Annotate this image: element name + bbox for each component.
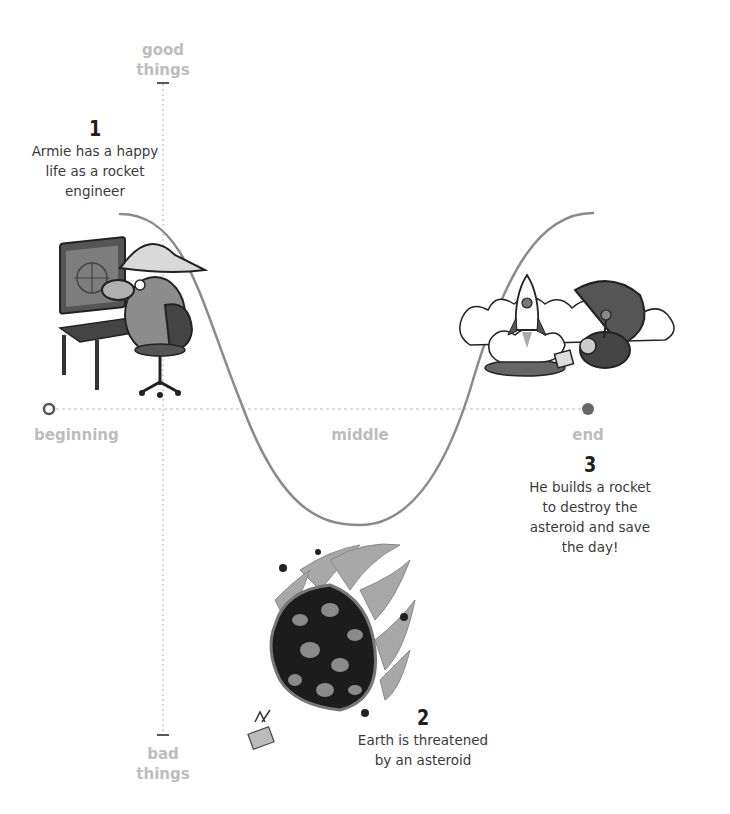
x-axis-start-label: beginning [34,425,134,445]
step-3-line-1: He builds a rocket [520,477,660,497]
step-1-line-1: Armie has a happy [20,141,170,161]
y-top-label-line-1: good [130,40,196,60]
illustration-computer-character-icon [60,237,205,398]
step-1-number: 1 [35,116,155,141]
step-3: 3 He builds a rocket to destroy the aste… [520,452,660,557]
illustration-rocket-launch-icon [460,275,674,376]
y-top-label-line-2: things [130,60,196,80]
step-3-number: 3 [534,452,646,477]
step-3-line-4: the day! [520,537,660,557]
step-1-line-2: life as a rocket [20,161,170,181]
step-2-number: 2 [363,705,483,730]
y-bottom-label-line-1: bad [130,744,196,764]
step-1-line-3: engineer [20,181,170,201]
start-dot-icon [44,404,54,414]
x-axis-end-label: end [558,425,618,445]
x-axis-middle-label: middle [320,425,400,445]
step-2: 2 Earth is threatened by an asteroid [348,705,498,770]
step-1-text: Armie has a happy life as a rocket engin… [20,141,170,201]
y-axis-bottom-label: bad things [130,744,196,784]
step-3-line-2: to destroy the [520,497,660,517]
step-2-line-1: Earth is threatened [348,730,498,750]
step-2-text: Earth is threatened by an asteroid [348,730,498,770]
end-dot-icon [582,403,594,415]
step-2-line-2: by an asteroid [348,750,498,770]
step-3-text: He builds a rocket to destroy the astero… [520,477,660,557]
step-1: 1 Armie has a happy life as a rocket eng… [20,116,170,201]
y-axis-top-label: good things [130,40,196,80]
step-3-line-3: asteroid and save [520,517,660,537]
y-bottom-label-line-2: things [130,764,196,784]
